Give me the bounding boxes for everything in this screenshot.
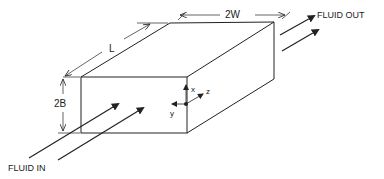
origin-point xyxy=(184,102,188,106)
fluid-out-arrows xyxy=(280,16,318,51)
top-right-edge xyxy=(187,22,274,77)
z-axis xyxy=(186,94,203,104)
axis-x-label: x xyxy=(191,85,195,94)
fluid-in-label: FLUID IN xyxy=(8,163,46,173)
fluid-out-label: FLUID OUT xyxy=(317,10,365,20)
fluid-out-arrow-1 xyxy=(280,16,314,35)
box xyxy=(81,22,274,133)
front-face xyxy=(81,77,187,133)
height-label: 2B xyxy=(54,98,67,109)
fluid-in-arrows xyxy=(29,104,143,160)
length-label: L xyxy=(109,43,115,54)
axis-z-label: z xyxy=(206,87,210,96)
length-dimension xyxy=(63,23,168,77)
width-label: 2W xyxy=(225,9,241,20)
axis-y-label: y xyxy=(170,109,174,118)
fluid-in-arrow-2 xyxy=(58,108,143,160)
rectangular-channel-diagram: L 2W 2B FLUID IN FLUID OUT x y z xyxy=(0,0,384,179)
top-back-edge xyxy=(170,22,274,23)
fluid-out-arrow-2 xyxy=(282,30,318,51)
top-left-edge xyxy=(81,23,170,77)
bottom-right-edge xyxy=(187,79,274,133)
